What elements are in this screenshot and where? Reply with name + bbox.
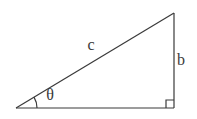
- right-angle-marker: [166, 100, 174, 108]
- opposite-side-label: b: [177, 51, 185, 68]
- theta-angle-arc: [34, 97, 37, 108]
- triangle-diagram: c b θ: [0, 0, 197, 119]
- theta-angle-label: θ: [46, 86, 54, 103]
- triangle-figure: c b θ: [0, 0, 197, 119]
- hypotenuse-label: c: [87, 36, 94, 53]
- triangle-hypotenuse-line: [16, 13, 174, 108]
